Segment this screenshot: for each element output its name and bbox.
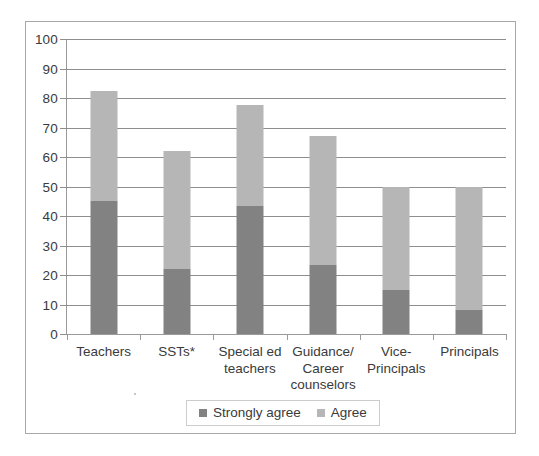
stacked-bar[interactable] [163, 151, 190, 334]
y-axis-label: 30 [43, 238, 58, 253]
x-tick [506, 334, 507, 340]
y-tick-100 [60, 39, 67, 40]
bar-slot [433, 39, 506, 334]
y-tick-60 [60, 157, 67, 158]
y-tick-80 [60, 98, 67, 99]
artifact-dot [134, 393, 136, 395]
legend: Strongly agreeAgree [186, 400, 380, 426]
bar-segment[interactable] [236, 105, 263, 205]
y-tick-90 [60, 69, 67, 70]
x-axis-label: Principals [423, 344, 515, 361]
bar-segment[interactable] [310, 136, 337, 264]
bar-segment[interactable] [163, 269, 190, 334]
y-tick-70 [60, 128, 67, 129]
bar-segment[interactable] [163, 151, 190, 269]
bar-slot [67, 39, 140, 334]
y-axis-label: 60 [43, 150, 58, 165]
y-axis-label: 50 [43, 179, 58, 194]
y-axis-label: 70 [43, 120, 58, 135]
x-tick [67, 334, 68, 340]
x-tick [433, 334, 434, 340]
x-tick [287, 334, 288, 340]
bar-segment[interactable] [236, 206, 263, 334]
y-axis-label: 90 [43, 61, 58, 76]
bar-segment[interactable] [383, 290, 410, 334]
y-tick-10 [60, 305, 67, 306]
x-tick [213, 334, 214, 340]
stacked-bar[interactable] [236, 105, 263, 334]
y-axis-label: 40 [43, 209, 58, 224]
y-axis-label: 10 [43, 297, 58, 312]
bar-slot [140, 39, 213, 334]
bar-slot [360, 39, 433, 334]
y-tick-0 [60, 334, 67, 335]
y-tick-40 [60, 216, 67, 217]
stacked-bar[interactable] [456, 187, 483, 335]
bar-segment[interactable] [456, 187, 483, 311]
bar-segment[interactable] [383, 187, 410, 290]
bar-segment[interactable] [310, 265, 337, 334]
y-axis-label: 80 [43, 91, 58, 106]
y-axis-label: 20 [43, 268, 58, 283]
stacked-bar[interactable] [383, 187, 410, 335]
y-axis-label: 0 [50, 327, 58, 342]
x-tick [360, 334, 361, 340]
plot-area: 0102030405060708090100 TeachersSSTs*Spec… [67, 39, 506, 334]
chart-frame: 0102030405060708090100 TeachersSSTs*Spec… [25, 21, 516, 434]
y-tick-20 [60, 275, 67, 276]
legend-entry[interactable]: Agree [317, 405, 367, 420]
bar-segment[interactable] [90, 91, 117, 202]
y-tick-30 [60, 246, 67, 247]
legend-entry[interactable]: Strongly agree [199, 405, 301, 420]
stacked-bar[interactable] [310, 136, 337, 334]
legend-label: Agree [331, 405, 367, 420]
legend-label: Strongly agree [213, 405, 301, 420]
strongly-agree-swatch [199, 409, 207, 417]
bar-segment[interactable] [90, 201, 117, 334]
stacked-bar[interactable] [90, 91, 117, 334]
bar-segment[interactable] [456, 310, 483, 334]
agree-swatch [317, 409, 325, 417]
x-tick [140, 334, 141, 340]
y-tick-50 [60, 187, 67, 188]
y-axis-label: 100 [35, 32, 58, 47]
bar-slot [213, 39, 286, 334]
bar-slot [287, 39, 360, 334]
